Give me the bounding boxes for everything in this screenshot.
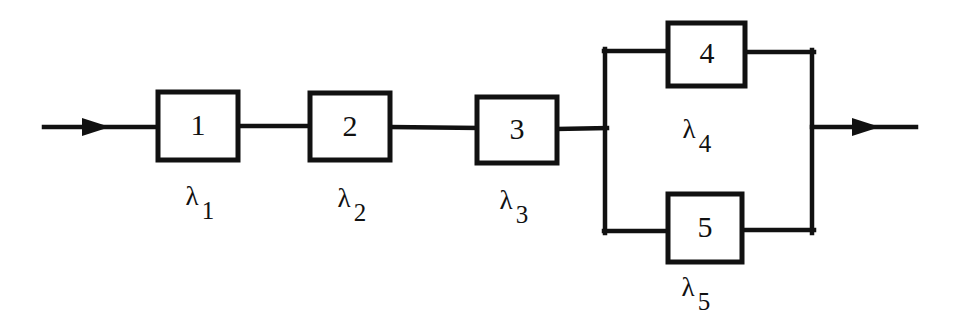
block-3: 3 λ 3 [477,97,557,228]
block-3-number: 3 [510,112,525,145]
block-5: 5 λ 5 [668,194,742,315]
block-1-lambda-subscript: 1 [202,197,215,224]
block-1-lambda-label: λ [185,181,198,211]
block-1: 1 λ 1 [158,92,238,224]
wire-block3-to-split [557,128,607,129]
reliability-block-diagram: 1 λ 1 2 λ 2 3 λ 3 4 λ 4 5 λ [0,0,960,324]
block-4: 4 λ 4 [668,23,745,157]
block-3-lambda-subscript: 3 [516,201,529,228]
block-3-lambda-label: λ [499,185,512,215]
block-2: 2 λ 2 [310,93,390,226]
input-arrowhead [82,118,110,136]
diagram-canvas: 1 λ 1 2 λ 2 3 λ 3 4 λ 4 5 λ [0,0,960,324]
block-4-lambda-label: λ [682,114,695,144]
wire-block2-to-block3 [390,127,479,128]
block-4-lambda-subscript: 4 [699,130,712,157]
output-arrowhead [852,118,880,136]
block-2-number: 2 [343,109,358,142]
block-1-number: 1 [191,108,206,141]
block-2-lambda-subscript: 2 [354,199,367,226]
block-5-lambda-subscript: 5 [698,288,711,315]
block-4-number: 4 [700,36,715,69]
block-2-lambda-label: λ [337,183,350,213]
block-5-number: 5 [698,210,713,243]
block-5-lambda-label: λ [681,272,694,302]
